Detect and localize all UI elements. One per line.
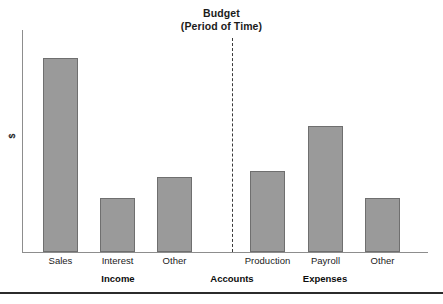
category-label-other-expenses: Other	[348, 255, 418, 266]
y-axis-line	[22, 30, 23, 252]
income-expenses-divider-line	[232, 38, 233, 252]
bar-payroll-expenses	[308, 126, 343, 252]
group-label-expenses: Expenses	[280, 273, 370, 284]
budget-bar-chart: Budget (Period of Time) $ SalesInterestO…	[0, 0, 443, 304]
chart-title: Budget (Period of Time)	[0, 7, 443, 32]
bottom-rule	[0, 292, 443, 294]
bar-other-income	[157, 177, 192, 252]
y-axis-label: $	[7, 133, 17, 138]
x-axis-line	[22, 252, 428, 253]
group-label-income: Income	[73, 273, 163, 284]
category-label-other-income: Other	[140, 255, 210, 266]
group-label-accounts: Accounts	[187, 273, 277, 284]
bar-sales-income	[43, 58, 78, 252]
bar-production-expenses	[250, 171, 285, 252]
chart-subtitle: (Period of Time)	[0, 20, 443, 33]
chart-title-main: Budget	[203, 7, 240, 19]
bar-other-expenses	[365, 198, 400, 252]
bar-interest-income	[100, 198, 135, 252]
